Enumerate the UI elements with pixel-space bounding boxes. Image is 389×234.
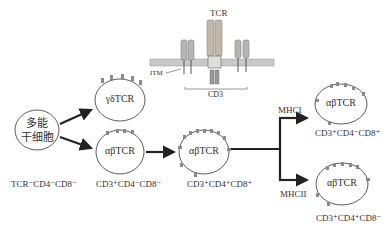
mhc2-label: MHCII [280,189,307,199]
ab-cd8-phenotype: CD3⁺CD4⁻CD8⁺ [315,128,380,138]
ab-tcr-dp-label: αβTCR [179,145,229,156]
ab-dn-phenotype: CD3⁺CD4⁻CD8⁻ [96,179,161,189]
arrow-stem-to-ab [60,137,91,148]
ab-cd4-phenotype: CD3⁺CD4⁺CD8⁻ [316,213,381,223]
ab-tcr-dn-label: αβTCR [95,145,145,156]
diagram-canvas [0,0,389,234]
stem-phenotype: TCR⁻CD4⁻CD8⁻ [11,179,77,189]
ab-tcr-cd4-label: αβTCR [317,177,367,188]
gd-tcr-label: γδTCR [95,93,145,104]
mhc1-label: MHCI [278,105,302,115]
tcr-receptor-inset [150,20,274,89]
tcr-alpha-chain [207,20,214,56]
itm-label: ITM [150,69,163,77]
ab-tcr-cd8-label: αβTCR [316,97,366,108]
ab-dp-phenotype: CD3⁺CD4⁺CD8⁺ [187,179,252,189]
stem-cell-label-1: 多能 [22,116,52,131]
cd3-bracket [185,87,247,89]
stem-cell-label-2: 干细胞 [17,130,57,145]
arrow-stem-to-gd [60,110,91,124]
cd3-label: CD3 [208,90,223,99]
tcr-beta-chain [215,20,222,56]
tcr-label: TCR [210,8,228,18]
